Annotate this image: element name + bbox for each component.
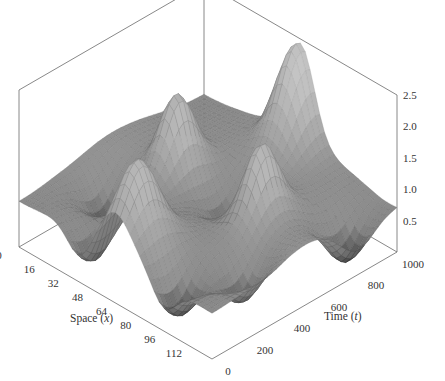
- z-tick-label: 0.5: [403, 215, 417, 227]
- z-tick-label: 1.5: [403, 152, 417, 164]
- space-tick-label: 32: [48, 277, 59, 289]
- box-edge: [19, 0, 204, 90]
- space-tick-label: 112: [166, 347, 182, 359]
- z-tick-label: 2.5: [403, 89, 417, 101]
- time-tick-label: 1000: [402, 258, 425, 270]
- space-tick-label: 48: [72, 291, 84, 303]
- space-tick-label: 16: [24, 263, 36, 275]
- space-tick-label: 80: [120, 319, 132, 331]
- space-tick-label: 0: [0, 249, 2, 261]
- space-tick-label: 96: [144, 333, 156, 345]
- time-tick-label: 0: [225, 365, 231, 377]
- time-axis-label: Time (t): [324, 310, 362, 323]
- z-tick-label: 2.0: [403, 120, 417, 132]
- time-tick-label: 400: [294, 322, 311, 334]
- surface-plot: 0163248648096112 02004006008001000 0.51.…: [0, 0, 445, 381]
- time-tick-label: 800: [368, 279, 385, 291]
- z-tick-label: 1.0: [403, 183, 417, 195]
- surface-mesh: [19, 43, 397, 316]
- z-axis-ticks: 0.51.01.52.02.5: [403, 89, 417, 227]
- space-axis-label: Space (x): [70, 312, 113, 325]
- time-tick-label: 200: [257, 344, 274, 356]
